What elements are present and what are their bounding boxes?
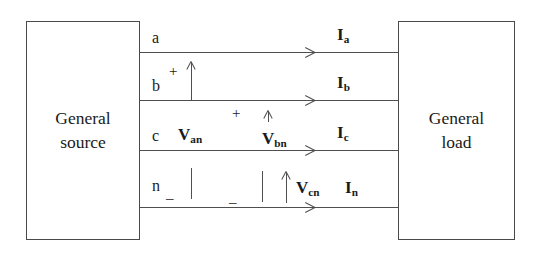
current-subscript-ib: b (344, 81, 350, 93)
current-label-ia: Ia (337, 26, 349, 43)
current-subscript-in: n (352, 186, 358, 198)
vbn-reference-tick-upper (262, 171, 263, 202)
van-arrowhead (185, 61, 198, 72)
phase-label-a: a (152, 30, 159, 46)
general-load-label-line-1: General (429, 107, 484, 130)
conductor-wire-n (140, 207, 398, 208)
voltage-symbol-van: V (178, 125, 190, 144)
current-symbol-in: I (345, 178, 352, 197)
phase-label-n: n (152, 178, 160, 194)
current-subscript-ia: a (344, 33, 350, 45)
current-label-ib: Ib (337, 74, 350, 91)
voltage-label-vbn: Vbn (262, 130, 287, 147)
voltage-subscript-vbn: bn (274, 137, 286, 149)
voltage-subscript-van: an (190, 133, 202, 145)
van-plus-sign: + (169, 64, 177, 79)
current-subscript-ic: c (344, 131, 349, 143)
current-symbol-ia: I (337, 25, 344, 44)
general-load-label-line-2: load (441, 131, 471, 154)
van-minus-sign: _ (166, 186, 174, 201)
current-symbol-ic: I (337, 123, 344, 142)
voltage-symbol-vbn: V (262, 129, 274, 148)
current-symbol-ib: I (337, 73, 344, 92)
voltage-label-vcn: Vcn (296, 179, 320, 196)
vbn-arrowhead (262, 110, 275, 121)
phase-label-b: b (152, 78, 160, 94)
general-source-label-line-2: source (60, 131, 106, 154)
current-label-ic: Ic (337, 124, 349, 141)
conductor-wire-c (140, 150, 398, 151)
van-reference-tick-upper (191, 168, 192, 199)
voltage-subscript-vcn: cn (308, 186, 319, 198)
general-source-box: General source (26, 21, 140, 240)
current-label-in: In (345, 179, 358, 196)
general-load-box: General load (398, 21, 515, 240)
voltage-label-van: Van (178, 126, 202, 143)
conductor-wire-a (140, 52, 398, 53)
vbn-minus-sign: _ (229, 190, 237, 205)
voltage-symbol-vcn: V (296, 178, 308, 197)
vcn-arrowhead (280, 171, 293, 182)
general-source-label-line-1: General (55, 107, 110, 130)
vbn-plus-sign: + (232, 106, 240, 121)
conductor-wire-b (140, 100, 398, 101)
phase-label-c: c (152, 128, 159, 144)
circuit-diagram: General source General load a b c n Ia I… (0, 0, 537, 257)
